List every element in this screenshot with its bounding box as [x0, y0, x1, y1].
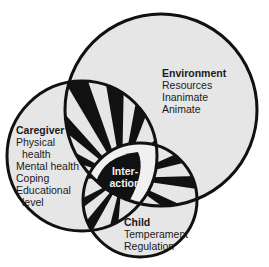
caregiver-label: Caregiver Physical health Mental health … [16, 124, 79, 208]
environment-label: Environment Resources Inanimate Animate [162, 67, 226, 115]
child-item: Temperament [124, 228, 188, 240]
environment-title: Environment [162, 67, 226, 79]
interaction-line1: Inter- [108, 165, 142, 177]
caregiver-item: Coping [16, 172, 79, 184]
environment-item: Animate [162, 103, 226, 115]
interaction-label: Inter- action [108, 165, 142, 189]
environment-item: Inanimate [162, 91, 226, 103]
caregiver-item: Educational [16, 184, 79, 196]
caregiver-item: level [16, 196, 79, 208]
child-label: Child Temperament Regulation [124, 216, 188, 252]
caregiver-item: Physical [16, 136, 79, 148]
caregiver-title: Caregiver [16, 124, 79, 136]
interaction-line2: action [108, 177, 142, 189]
caregiver-item: Mental health [16, 160, 79, 172]
caregiver-item: health [16, 148, 79, 160]
environment-item: Resources [162, 79, 226, 91]
child-item: Regulation [124, 240, 188, 252]
child-title: Child [124, 216, 188, 228]
